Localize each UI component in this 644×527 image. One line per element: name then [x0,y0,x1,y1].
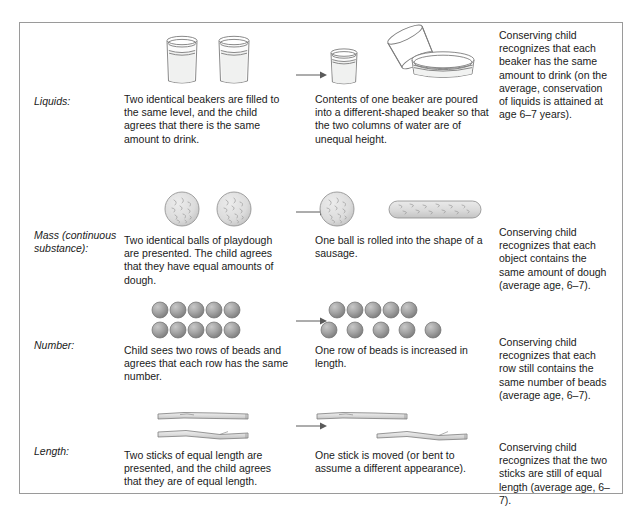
two-equal-bead-rows-art [124,300,290,340]
stage-a-caption-length: Two sticks of equal length are presented… [124,449,290,489]
beaker-poured-into-wide-dish-art [315,27,491,87]
stage-b-caption-number: One row of beads is increased in length. [315,344,491,370]
conservation-figure-frame: Liquids: [19,22,623,494]
row-label-number: Number: [34,339,122,352]
row-label-length: Length: [34,445,122,458]
row-label-mass-text: Mass (continuous substance): [34,229,116,254]
stage-b-caption-mass: One ball is rolled into the shape of a s… [315,234,491,260]
two-playdough-balls-art [124,190,290,230]
stage-a-caption-liquids: Two identical beakers are filled to the … [124,93,290,146]
stage-a-length: Two sticks of equal length are presented… [124,405,290,489]
stage-b-caption-liquids: Contents of one beaker are poured into a… [315,93,491,146]
outcome-mass: Conserving child recognizes that each ob… [499,226,611,292]
stage-a-caption-mass: Two identical balls of playdough are pre… [124,234,290,287]
two-aligned-sticks-art [124,405,290,445]
stage-b-liquids: Contents of one beaker are poured into a… [315,27,491,146]
stage-a-liquids: Two identical beakers are filled to the … [124,27,290,146]
row-length: Length: [20,403,622,495]
row-number: Number: [20,298,622,403]
outcome-length: Conserving child recognizes that the two… [499,441,611,507]
row-liquids: Liquids: [20,23,622,188]
stage-b-length: One stick is moved (or bent to assume a … [315,405,491,475]
stage-b-mass: One ball is rolled into the shape of a s… [315,190,491,260]
stage-b-caption-length: One stick is moved (or bent to assume a … [315,449,491,475]
one-stick-shifted-art [315,405,491,445]
one-bead-row-spread-art [315,300,491,340]
outcome-liquids: Conserving child recognizes that each be… [499,29,611,121]
ball-and-sausage-art [315,190,491,230]
row-mass: Mass (continuous substance): [20,188,622,298]
stage-b-number: One row of beads is increased in length. [315,300,491,370]
outcome-number: Conserving child recognizes that each ro… [499,336,611,402]
stage-a-number: Child sees two rows of beads and agrees … [124,300,290,384]
row-label-mass: Mass (continuous substance): [34,229,122,254]
stage-a-mass: Two identical balls of playdough are pre… [124,190,290,287]
row-label-liquids: Liquids: [34,95,122,108]
two-identical-beakers-art [124,27,290,87]
stage-a-caption-number: Child sees two rows of beads and agrees … [124,344,290,384]
